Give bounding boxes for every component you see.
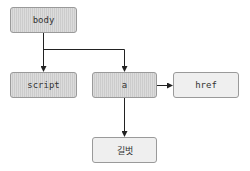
node-script: script (10, 72, 77, 98)
node-href: href (173, 72, 239, 98)
node-label: 길벗 (117, 144, 133, 157)
node-a: a (92, 72, 157, 98)
node-label: href (195, 80, 217, 90)
edge-body-a (44, 50, 125, 72)
node-body: body (10, 7, 77, 33)
node-text-gilbut: 길벗 (92, 137, 157, 163)
node-label: a (122, 80, 127, 90)
node-label: body (33, 15, 55, 25)
dom-tree-diagram: body script a href 길벗 (0, 0, 250, 171)
node-label: script (27, 80, 60, 90)
